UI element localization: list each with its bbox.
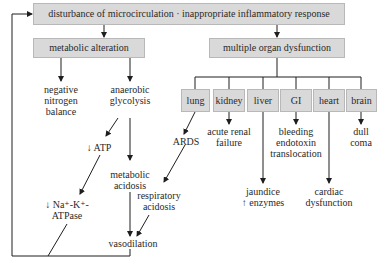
effect-line: dysfunction <box>305 197 352 208</box>
effect-acute-renal-failure: acute renal failure <box>207 126 251 148</box>
metabolic-acidosis-node: metabolic acidosis <box>110 169 149 191</box>
organ-box-gi: GI <box>280 89 312 112</box>
node-line: glycolysis <box>110 95 151 106</box>
effect-line: translocation <box>270 148 322 159</box>
effect-jaundice-enzymes: jaundice ↑ enzymes <box>242 186 285 208</box>
organ-box-lung: lung <box>181 89 210 112</box>
organ-label: heart <box>319 96 339 106</box>
effect-line: cardiac <box>305 186 352 197</box>
organ-label: kidney <box>215 96 242 106</box>
effect-line: endotoxin <box>270 137 322 148</box>
effect-line: ↑ enzymes <box>242 197 285 208</box>
atp-decrease-node: ↓ ATP <box>87 142 112 153</box>
node-line: metabolic <box>110 169 149 180</box>
node-line: acidosis <box>137 201 180 212</box>
negative-nitrogen-balance-node: negative nitrogen balance <box>44 84 78 117</box>
node-line: balance <box>44 106 78 117</box>
node-line: respiratory <box>137 190 180 201</box>
organ-label: GI <box>291 96 302 106</box>
node-line: negative <box>44 84 78 95</box>
node-line: anaerobic <box>110 84 151 95</box>
node-line: vasodilation <box>109 238 158 249</box>
metabolic-alteration-label: metabolic alteration <box>49 43 129 53</box>
effect-bleeding-endotoxin: bleeding endotoxin translocation <box>270 126 322 159</box>
effect-line: coma <box>350 137 372 148</box>
organ-box-kidney: kidney <box>213 89 245 112</box>
multiple-organ-dysfunction-label: multiple organ dysfunction <box>223 43 331 53</box>
effect-line: acute renal <box>207 126 251 137</box>
respiratory-acidosis-node: respiratory acidosis <box>137 190 180 212</box>
effect-dull-coma: dull coma <box>350 126 372 148</box>
top-box-microcirculation: disturbance of microcirculation · inappr… <box>33 3 345 25</box>
organ-label: lung <box>187 96 205 106</box>
na-k-atpase-node: ↓ Na⁺-K⁺- ATPase <box>45 199 89 221</box>
organ-box-brain: brain <box>346 89 377 112</box>
effect-line: jaundice <box>242 186 285 197</box>
node-line: nitrogen <box>44 95 78 106</box>
effect-line: ARDS <box>173 136 200 147</box>
organ-box-liver: liver <box>247 89 279 112</box>
node-line: ↓ Na⁺-K⁺- <box>45 199 89 210</box>
node-line: ATPase <box>45 210 89 221</box>
effect-ards: ARDS <box>173 136 200 147</box>
top-box-label: disturbance of microcirculation · inappr… <box>48 9 330 19</box>
node-line: ↓ ATP <box>87 142 112 153</box>
vasodilation-node: vasodilation <box>109 238 158 249</box>
organ-label: brain <box>351 96 372 106</box>
metabolic-alteration-box: metabolic alteration <box>33 38 145 58</box>
effect-line: failure <box>207 137 251 148</box>
organ-box-heart: heart <box>313 89 345 112</box>
anaerobic-glycolysis-node: anaerobic glycolysis <box>110 84 151 106</box>
effect-line: bleeding <box>270 126 322 137</box>
effect-line: dull <box>350 126 372 137</box>
multiple-organ-dysfunction-box: multiple organ dysfunction <box>209 38 345 58</box>
organ-label: liver <box>254 96 272 106</box>
effect-cardiac-dysfunction: cardiac dysfunction <box>305 186 352 208</box>
